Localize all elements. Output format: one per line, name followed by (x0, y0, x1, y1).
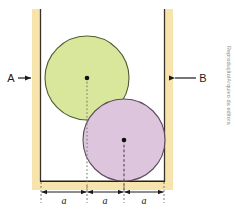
physics-diagram: A B a a a (0, 0, 236, 209)
label-a: A (7, 72, 15, 84)
dimension-label-1: a (62, 195, 67, 206)
dimension-label-3: a (142, 195, 147, 206)
right-wall (164, 9, 173, 190)
left-wall (32, 9, 41, 190)
dimension-label-2: a (103, 195, 108, 206)
label-b: B (199, 72, 206, 84)
figure-container: A B a a a Reprodução/Arquivo da editora (0, 0, 236, 209)
purple-circle-center-dot (122, 138, 127, 143)
floor-band (32, 181, 173, 190)
credit-line: Reprodução/Arquivo da editora (221, 46, 235, 176)
green-circle-center-dot (85, 76, 90, 81)
credit-text: Reprodução/Arquivo da editora (226, 46, 232, 125)
